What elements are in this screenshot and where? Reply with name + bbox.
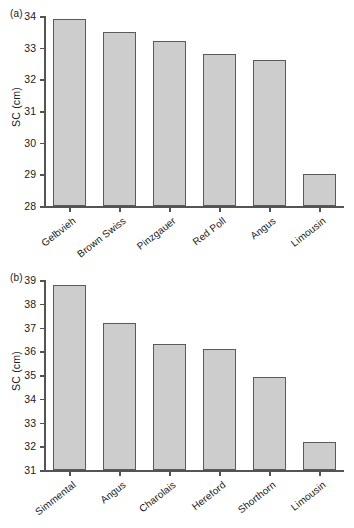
chart-panel-b: (b) SC (cm) 313233343536373839SimmentalA…: [0, 264, 354, 528]
plot-area-a: 28293031323334GelbviehBrown SwissPinzgau…: [44, 16, 344, 206]
y-axis-tick: [40, 375, 44, 377]
y-axis-tick-label: 34: [12, 10, 36, 22]
bar: [103, 32, 136, 206]
y-axis-tick: [40, 111, 44, 113]
x-axis-tick: [69, 207, 71, 212]
chart-panel-a: (a) SC (cm) 28293031323334GelbviehBrown …: [0, 0, 354, 264]
bar: [253, 377, 286, 470]
y-axis-tick-label: 35: [12, 369, 36, 381]
y-axis-tick-label: 39: [12, 274, 36, 286]
y-axis-tick-label: 36: [12, 345, 36, 357]
y-axis-tick: [40, 16, 44, 18]
x-axis-tick: [219, 471, 221, 476]
y-axis-tick: [40, 206, 44, 208]
y-axis-tick: [40, 304, 44, 306]
bar: [103, 323, 136, 470]
x-axis-tick: [319, 207, 321, 212]
x-axis-tick: [169, 471, 171, 476]
y-axis-tick: [40, 280, 44, 282]
bar: [203, 54, 236, 206]
y-axis-tick: [40, 79, 44, 81]
x-axis-tick: [119, 471, 121, 476]
y-axis-tick-label: 32: [12, 440, 36, 452]
x-axis-tick: [169, 207, 171, 212]
bar: [153, 344, 186, 470]
x-axis-tick: [269, 471, 271, 476]
y-axis-tick-label: 38: [12, 298, 36, 310]
y-axis-tick-label: 31: [12, 464, 36, 476]
bar: [203, 349, 236, 470]
y-axis-tick-label: 31: [12, 105, 36, 117]
y-axis-tick: [40, 399, 44, 401]
bar: [153, 41, 186, 206]
y-axis-tick-label: 37: [12, 322, 36, 334]
y-axis-line: [44, 280, 46, 471]
y-axis-tick: [40, 48, 44, 50]
y-axis-tick: [40, 174, 44, 176]
x-axis-tick: [219, 207, 221, 212]
x-axis-tick: [319, 471, 321, 476]
y-axis-tick: [40, 446, 44, 448]
y-axis-tick: [40, 470, 44, 472]
y-axis-tick-label: 34: [12, 393, 36, 405]
figure-root: (a) SC (cm) 28293031323334GelbviehBrown …: [0, 0, 354, 528]
y-axis-tick: [40, 423, 44, 425]
bar: [253, 60, 286, 206]
y-axis-tick-label: 32: [12, 73, 36, 85]
y-axis-tick-label: 33: [12, 42, 36, 54]
x-axis-line: [44, 206, 344, 208]
bar: [303, 174, 336, 206]
y-axis-tick-label: 33: [12, 417, 36, 429]
y-axis-tick: [40, 143, 44, 145]
bar: [303, 442, 336, 471]
y-axis-tick: [40, 328, 44, 330]
bar: [53, 285, 86, 470]
y-axis-tick: [40, 351, 44, 353]
x-axis-tick: [119, 207, 121, 212]
x-axis-tick: [69, 471, 71, 476]
y-axis-tick-label: 28: [12, 200, 36, 212]
x-axis-line: [44, 470, 344, 472]
y-axis-tick-label: 29: [12, 168, 36, 180]
plot-area-b: 313233343536373839SimmentalAngusCharolai…: [44, 280, 344, 470]
x-axis-tick: [269, 207, 271, 212]
y-axis-line: [44, 16, 46, 207]
bar: [53, 19, 86, 206]
y-axis-tick-label: 30: [12, 137, 36, 149]
